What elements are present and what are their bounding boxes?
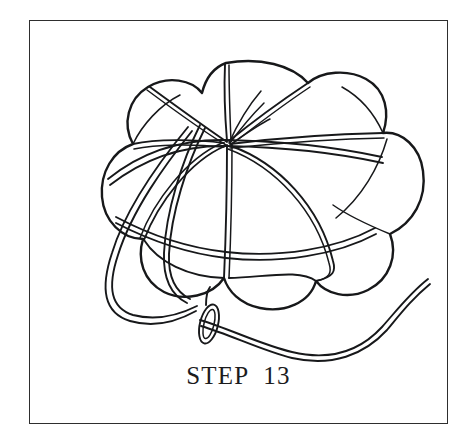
step-caption: STEP 13 xyxy=(30,362,447,390)
needle-knot-loop xyxy=(195,302,222,345)
front-panel-fold xyxy=(229,274,316,281)
front-panel-fold xyxy=(144,240,224,278)
lobe-inner-fold xyxy=(333,205,390,234)
thread-wrap-belly xyxy=(116,217,375,254)
gathering-seam-lines xyxy=(231,146,334,281)
lobe-inner-fold xyxy=(336,139,387,218)
illustration-page: STEP 13 xyxy=(0,0,471,446)
gathering-seam-lines xyxy=(225,64,227,141)
gathering-seam-lines xyxy=(150,87,227,142)
gathering-seam-lines xyxy=(229,65,231,141)
gathering-seam-lines xyxy=(229,83,308,141)
lobe-inner-fold xyxy=(342,87,383,133)
needle-knot-loop xyxy=(206,287,210,305)
petal-lobe-outer-contour xyxy=(102,61,424,309)
lobe-inner-fold xyxy=(133,95,180,144)
thread-tail xyxy=(200,279,428,355)
illustration-border: STEP 13 xyxy=(29,20,448,424)
